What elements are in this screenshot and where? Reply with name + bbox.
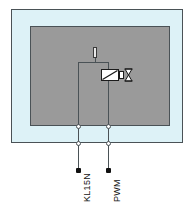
control-module-body [30, 26, 170, 126]
terminal-dot-kl15n [76, 168, 81, 173]
terminal-node-housing-pwm [106, 141, 111, 146]
wire-kl15n-vertical-upper [78, 62, 79, 128]
terminal-dot-pwm [106, 168, 111, 173]
diagram-canvas: KL15N PWM [0, 0, 194, 204]
wire-pwm-vertical-lower [108, 146, 109, 170]
terminal-label-pwm: PWM [112, 179, 122, 202]
indicator-element-icon [93, 47, 97, 58]
wire-kl15n-vertical-lower [78, 146, 79, 170]
wire-horizontal-bus [78, 62, 109, 63]
terminal-node-module-pwm [106, 124, 111, 129]
terminal-label-kl15n: KL15N [82, 173, 92, 202]
valve-diagonal-icon [101, 69, 119, 81]
terminal-node-housing-kl15n [76, 141, 81, 146]
terminal-node-module-kl15n [76, 124, 81, 129]
bowtie-symbol-icon [124, 68, 133, 82]
